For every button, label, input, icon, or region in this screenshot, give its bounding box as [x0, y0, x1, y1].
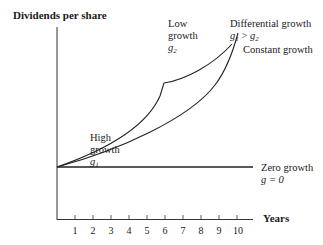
tick-label: 10	[231, 225, 245, 236]
tick-label: 2	[86, 225, 100, 236]
x-axis-label: Years	[263, 212, 289, 224]
annotation-high-growth: High growth g1	[90, 132, 120, 168]
g1-symbol: g1	[90, 156, 120, 168]
tick-label: 9	[212, 225, 226, 236]
differential-text: Differential growth	[230, 18, 311, 30]
g-equals-0: g = 0	[261, 174, 313, 186]
growth-text: growth	[168, 30, 198, 42]
tick-label: 6	[158, 225, 172, 236]
growth-text: growth	[90, 144, 120, 156]
tick-label: 3	[104, 225, 118, 236]
constant-growth-curve	[57, 33, 238, 167]
annotation-constant-growth: Constant growth	[243, 44, 313, 56]
annotation-differential-growth: Differential growth g1 > g2	[230, 18, 311, 42]
high-text: High	[90, 132, 120, 144]
annotation-low-growth: Low growth g2	[168, 18, 198, 54]
tick-label: 7	[176, 225, 190, 236]
x-ticks	[75, 215, 237, 219]
differential-growth-curve	[57, 44, 232, 167]
tick-label: 5	[140, 225, 154, 236]
y-axis-label: Dividends per share	[13, 9, 107, 21]
tick-label: 8	[194, 225, 208, 236]
tick-label: 4	[122, 225, 136, 236]
g1-gt-g2: g1 > g2	[230, 30, 311, 42]
annotation-zero-growth: Zero growth g = 0	[261, 162, 313, 186]
low-text: Low	[168, 18, 198, 30]
zero-text: Zero growth	[261, 162, 313, 174]
tick-label: 1	[68, 225, 82, 236]
g2-symbol: g2	[168, 42, 198, 54]
